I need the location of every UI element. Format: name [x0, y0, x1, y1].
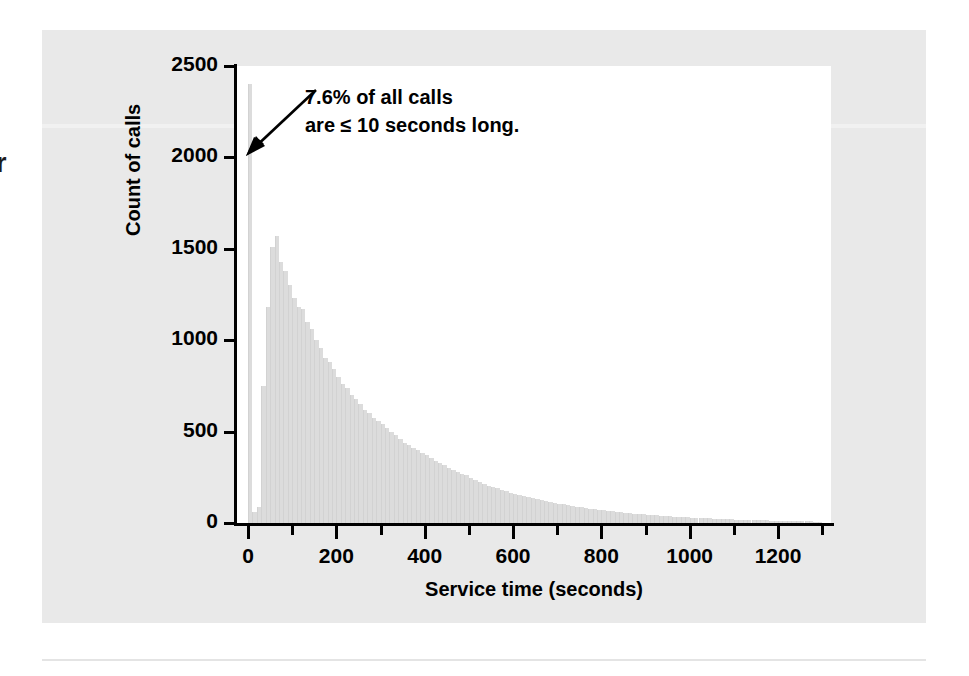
chart-annotation: 7.6% of all calls are ≤ 10 seconds long.	[305, 83, 519, 140]
page-margin-glyph: r	[0, 148, 7, 179]
y-axis-title: Count of calls	[122, 104, 145, 236]
annotation-line-1: 7.6% of all calls	[305, 83, 519, 111]
x-axis-minor-tick	[556, 526, 559, 535]
x-axis-tick-label: 1000	[666, 544, 713, 568]
x-axis-tick	[335, 526, 338, 539]
x-axis-minor-tick	[821, 526, 824, 535]
x-axis-minor-tick	[468, 526, 471, 535]
x-axis-minor-tick	[380, 526, 383, 535]
x-axis-tick-label: 800	[584, 544, 619, 568]
x-axis-tick	[424, 526, 427, 539]
x-axis-tick	[247, 526, 250, 539]
y-axis-line	[234, 64, 237, 525]
y-axis-tick-label: 1000	[171, 326, 218, 350]
y-axis-tick	[224, 339, 235, 342]
x-axis-tick	[777, 526, 780, 539]
x-axis-minor-tick	[733, 526, 736, 535]
x-axis-tick	[512, 526, 515, 539]
y-axis-tick	[224, 156, 235, 159]
y-axis-tick-label: 500	[183, 418, 218, 442]
y-axis-tick	[224, 431, 235, 434]
x-axis-minor-tick	[645, 526, 648, 535]
x-axis-minor-tick	[291, 526, 294, 535]
y-axis-tick-label: 0	[206, 509, 218, 533]
y-axis-tick-labels: 05001000150020002500	[140, 0, 218, 676]
x-axis-tick-label: 200	[319, 544, 354, 568]
y-axis-tick-label: 2000	[171, 143, 218, 167]
x-axis-tick	[600, 526, 603, 539]
y-axis-tick-label: 2500	[171, 52, 218, 76]
x-axis-tick-label: 600	[495, 544, 530, 568]
y-axis-tick-label: 1500	[171, 235, 218, 259]
x-axis-title: Service time (seconds)	[237, 578, 831, 601]
x-axis-tick	[689, 526, 692, 539]
y-axis-tick	[224, 248, 235, 251]
y-axis-tick	[224, 65, 235, 68]
annotation-arrow-icon	[238, 88, 318, 163]
annotation-line-2: are ≤ 10 seconds long.	[305, 111, 519, 139]
x-axis-line	[234, 523, 834, 526]
x-axis-tick-label: 1200	[755, 544, 802, 568]
y-axis-tick	[224, 522, 235, 525]
x-axis-tick-label: 400	[407, 544, 442, 568]
x-axis-tick-label: 0	[242, 544, 254, 568]
